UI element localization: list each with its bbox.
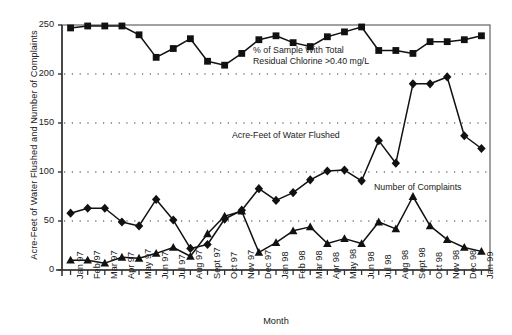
y-tick-label: 150 — [20, 117, 54, 127]
annotation-acrefeet: Acre-Feet of Water Flushed — [232, 130, 340, 141]
x-tick-label: Feb 97 — [92, 250, 102, 279]
data-point-triangle — [409, 192, 418, 200]
x-axis-title: Month — [62, 316, 490, 326]
data-point-square — [255, 36, 262, 43]
x-tick-label: Apr 97 — [126, 252, 136, 279]
data-point-triangle — [306, 222, 315, 230]
data-point-square — [478, 32, 485, 39]
data-point-square — [444, 38, 451, 45]
data-point-square — [341, 28, 348, 35]
y-tick-label: 250 — [20, 19, 54, 29]
x-tick-label: Apr 98 — [331, 252, 341, 279]
data-point-square — [204, 58, 211, 65]
y-tick-label: 0 — [20, 264, 54, 274]
x-tick-label: May 98 — [348, 249, 358, 279]
data-point-square — [324, 33, 331, 40]
data-point-square — [84, 23, 91, 30]
x-tick-label: Dec 98 — [468, 250, 478, 279]
data-point-triangle — [272, 238, 281, 246]
x-tick-label: Dec 97 — [263, 250, 273, 279]
data-point-diamond — [66, 209, 74, 218]
series-line — [71, 77, 482, 249]
data-point-square — [153, 54, 160, 61]
data-point-diamond — [477, 144, 485, 153]
data-point-diamond — [426, 79, 434, 88]
data-point-square — [238, 50, 245, 57]
chart-figure: Acre-Feet of Water Flushed and Number of… — [0, 0, 512, 335]
data-point-diamond — [306, 175, 314, 184]
data-point-square — [187, 35, 194, 42]
data-point-square — [119, 23, 126, 30]
data-point-square — [392, 47, 399, 54]
y-tick-label: 200 — [20, 68, 54, 78]
x-tick-label: Nov 98 — [451, 250, 461, 279]
x-tick-label: Jun 98 — [366, 251, 376, 279]
data-point-square — [461, 36, 468, 43]
data-point-triangle — [169, 243, 178, 251]
x-tick-label: Jul 98 — [383, 254, 393, 279]
data-point-square — [67, 25, 74, 32]
x-tick-label: Sept 97 — [212, 247, 222, 279]
data-point-triangle — [426, 222, 435, 230]
data-point-triangle — [374, 218, 383, 226]
data-point-square — [101, 23, 108, 30]
data-point-square — [170, 45, 177, 52]
data-point-diamond — [272, 196, 280, 205]
x-tick-label: Jun 97 — [160, 251, 170, 279]
data-point-diamond — [357, 176, 365, 185]
x-tick-label: Jan 98 — [280, 251, 290, 279]
x-tick-label: Jul 97 — [177, 254, 187, 279]
y-tick-label: 50 — [20, 215, 54, 225]
data-point-square — [221, 62, 228, 69]
data-point-square — [427, 38, 434, 45]
x-tick-label: Mar 97 — [109, 250, 119, 279]
data-point-diamond — [83, 204, 91, 213]
annotation-chlorine-line2: Residual Chlorine >0.40 mg/L — [253, 56, 369, 67]
annotation-chlorine-line1: % of Sample With Total — [253, 45, 369, 56]
annotation-chlorine: % of Sample With Total Residual Chlorine… — [253, 45, 369, 68]
data-point-square — [358, 24, 365, 31]
x-tick-label: Nov 97 — [246, 250, 256, 279]
x-tick-label: Jan 99 — [485, 251, 495, 279]
data-point-square — [410, 50, 417, 57]
x-tick-label: Oct 97 — [229, 252, 239, 279]
y-tick-label: 100 — [20, 166, 54, 176]
annotation-complaints: Number of Complaints — [374, 182, 462, 193]
data-point-diamond — [443, 72, 451, 81]
data-point-triangle — [340, 234, 349, 242]
data-point-diamond — [340, 165, 348, 174]
x-tick-label: Aug 98 — [400, 250, 410, 279]
x-tick-label: Jan 97 — [75, 251, 85, 279]
x-tick-label: Mar 98 — [314, 250, 324, 279]
data-point-square — [273, 32, 280, 39]
data-point-square — [136, 31, 143, 38]
x-tick-label: Oct 98 — [434, 252, 444, 279]
x-tick-label: Aug 97 — [194, 250, 204, 279]
data-point-square — [375, 47, 382, 54]
series-diamond — [66, 72, 485, 253]
data-point-diamond — [289, 188, 297, 197]
data-point-diamond — [460, 131, 468, 140]
x-tick-label: Feb 98 — [297, 250, 307, 279]
x-tick-label: May 97 — [143, 249, 153, 279]
data-point-diamond — [409, 79, 417, 88]
data-point-diamond — [323, 166, 331, 175]
y-axis-title: Acre-Feet of Water Flushed and Number of… — [29, 14, 39, 276]
x-tick-label: Sept 98 — [417, 247, 427, 279]
